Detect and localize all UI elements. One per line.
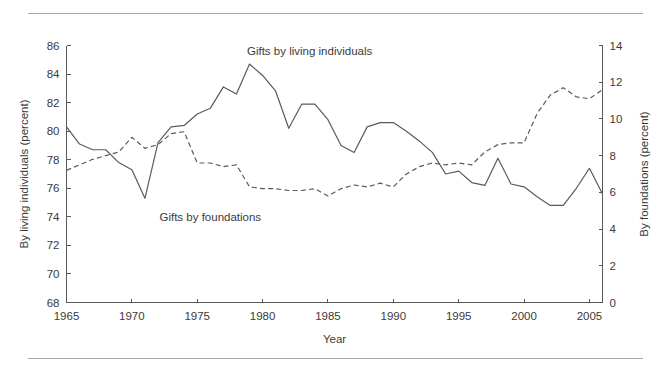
- y-axis-left-title: By living individuals (percent): [18, 99, 30, 248]
- line-chart: 6870727476788082848602468101214196519701…: [0, 0, 671, 371]
- x-axis-tick-label: 1965: [54, 310, 80, 322]
- y-axis-right-tick-label: 6: [610, 186, 616, 198]
- clipped-header-text: [28, 0, 643, 7]
- x-axis-tick-label: 1985: [315, 310, 341, 322]
- divider-bottom: [28, 358, 643, 359]
- series-line-1: [67, 64, 603, 205]
- y-axis-right-tick-label: 10: [610, 113, 623, 125]
- x-axis: 196519701975198019851990199520002005: [54, 299, 603, 322]
- y-axis-left-tick-label: 74: [47, 211, 60, 223]
- y-axis-left-tick-label: 76: [47, 182, 60, 194]
- series-line-2: [67, 88, 603, 196]
- y-axis-right-tick-label: 14: [610, 40, 623, 52]
- x-axis-tick-label: 1980: [250, 310, 276, 322]
- axis-frame: [67, 46, 603, 303]
- y-axis-left-tick-label: 78: [47, 154, 60, 166]
- series-annotation-2: Gifts by foundations: [159, 211, 261, 223]
- y-axis-right-tick-label: 0: [610, 297, 616, 309]
- x-axis-tick-label: 1995: [446, 310, 472, 322]
- x-axis-tick-label: 1975: [184, 310, 210, 322]
- series-annotation-1: Gifts by living individuals: [247, 45, 373, 57]
- y-axis-left-tick-label: 82: [47, 97, 60, 109]
- y-axis-left-tick-label: 80: [47, 125, 60, 137]
- y-axis-left-tick-label: 84: [47, 68, 60, 80]
- x-axis-tick-label: 2005: [577, 310, 603, 322]
- x-axis-title: Year: [323, 333, 346, 345]
- y-axis-left-tick-label: 70: [47, 268, 60, 280]
- y-axis-right-tick-label: 2: [610, 260, 616, 272]
- y-axis-right-tick-label: 8: [610, 150, 616, 162]
- axes: [67, 46, 603, 303]
- y-axis-right-tick-label: 4: [610, 223, 617, 235]
- x-axis-tick-label: 1970: [119, 310, 145, 322]
- y-axis-left-tick-label: 72: [47, 239, 60, 251]
- x-axis-tick-label: 1990: [381, 310, 407, 322]
- divider-top: [28, 13, 643, 14]
- y-axis-right-title: By foundations (percent): [638, 111, 650, 236]
- y-axis-left-tick-label: 86: [47, 40, 60, 52]
- x-axis-tick-label: 2000: [511, 310, 537, 322]
- y-axis-left-tick-label: 68: [47, 297, 60, 309]
- figure-container: 6870727476788082848602468101214196519701…: [0, 0, 671, 371]
- y-axis-right-tick-label: 12: [610, 76, 623, 88]
